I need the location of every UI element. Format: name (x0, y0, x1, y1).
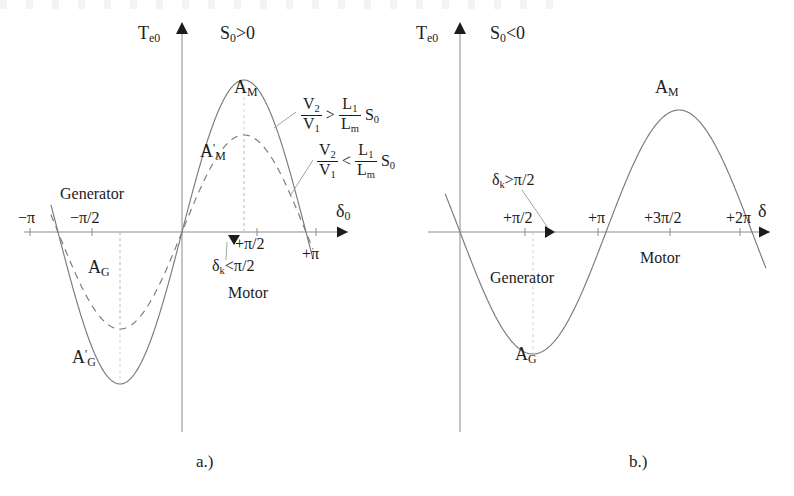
panel-a-tick-label-1: −π/2 (70, 210, 100, 226)
panel-b-x-axis-label: δ (758, 202, 766, 220)
panel-b-y-axis-label: Te0 (416, 24, 438, 45)
panel-a-ineq-greater: V2V1>L1LmS0 (300, 97, 379, 135)
panel-b-region-label-generator: Generator (490, 270, 554, 286)
panel-a-y-axis-label: Te0 (138, 24, 160, 45)
panel-a-tick-label-3: +π (302, 246, 319, 262)
panel-a-x-axis-arrowhead (337, 227, 348, 238)
panel-b-x-axis-arrowhead (759, 227, 770, 238)
panel-b-tick-label-0: +π/2 (503, 210, 533, 226)
panel-b-delta-k-note: δk>π/2 (492, 172, 534, 191)
panel-b-tick-label-2: +3π/2 (644, 210, 682, 226)
panel-a-x-axis-label: δ0 (336, 202, 350, 223)
panel-b-curve-label-A_G: AG (515, 345, 537, 366)
panel-b-slip-condition: S0<0 (490, 24, 525, 45)
figure-drawing-layer (0, 0, 794, 496)
panel-a-tick-label-2: +π/2 (235, 236, 265, 252)
panel-caption-b: b.) (629, 452, 647, 472)
panel-b-delta-k-marker (545, 226, 555, 238)
panel-a-curve-label-A_M: AM (234, 78, 258, 99)
panel-a-ineq-greater-leader (274, 112, 296, 128)
panel-a-curve-label-A_Mp: A'M (200, 142, 226, 163)
panel-a-tick-label-0: −π (18, 210, 35, 226)
panel-a-ineq-less: V2V1<L1LmS0 (316, 143, 395, 181)
panel-b-tick-label-3: +2π (726, 210, 751, 226)
panel-a-slip-condition: S0>0 (220, 24, 255, 45)
panel-a-ineq-less-leader (290, 160, 313, 196)
figure-root: −π−π/2+π/2+πTe0δ0S0>0AMA'MAGA'GGenerator… (0, 0, 794, 496)
panel-a-y-axis-arrowhead (176, 22, 188, 34)
panel-b-y-axis-arrowhead (454, 22, 466, 34)
panel-b-curve-label-A_M: AM (655, 78, 679, 99)
panel-b-tick-label-1: +π (588, 210, 605, 226)
panel-a-curve-label-A_Gp: A'G (72, 348, 96, 369)
panel-a-region-label-motor: Motor (228, 285, 268, 301)
panel-b-region-label-motor: Motor (640, 250, 680, 266)
panel-a-region-label-generator: Generator (60, 186, 124, 202)
panel-a-curve-label-A_G: AG (88, 258, 110, 279)
panel-a-delta-k-note: δk<π/2 (212, 258, 254, 277)
panel-caption-a: a.) (196, 452, 213, 472)
